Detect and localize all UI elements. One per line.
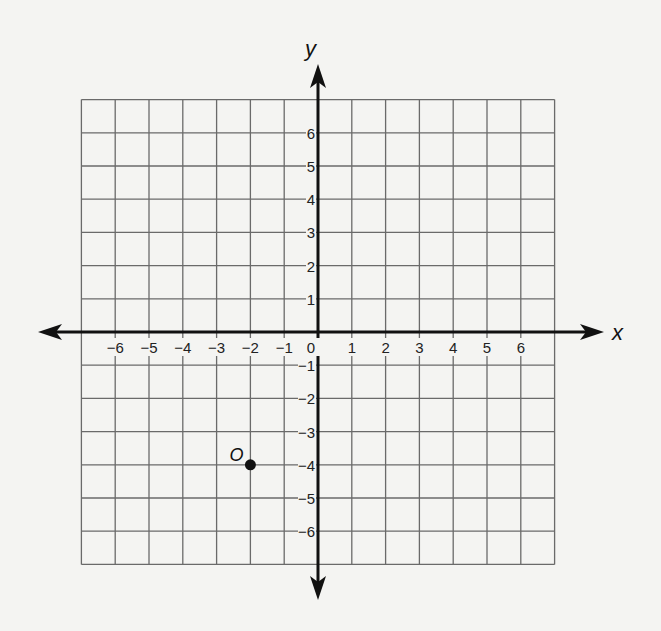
y-tick-label: 3 [307, 224, 315, 241]
x-tick-label: −1 [276, 339, 293, 356]
point-label: O [229, 445, 243, 465]
x-tick-label: 4 [449, 339, 457, 356]
y-tick-label: −3 [298, 424, 315, 441]
x-tick-label: 2 [381, 339, 389, 356]
x-tick-label: −6 [107, 339, 124, 356]
y-tick-label: −1 [298, 357, 315, 374]
x-tick-label: 6 [517, 339, 525, 356]
y-tick-label: −5 [298, 490, 315, 507]
x-tick-label: −3 [208, 339, 225, 356]
x-tick-label: 5 [483, 339, 491, 356]
y-tick-label: −4 [298, 457, 315, 474]
y-tick-label: −2 [298, 390, 315, 407]
y-tick-label: 5 [307, 158, 315, 175]
x-tick-label: 0 [307, 339, 315, 356]
x-tick-label: −2 [242, 339, 259, 356]
x-tick-label: −4 [174, 339, 191, 356]
y-tick-label: −6 [298, 523, 315, 540]
x-tick-label: 3 [415, 339, 423, 356]
y-tick-label: 4 [307, 191, 315, 208]
y-tick-label: 2 [307, 258, 315, 275]
x-axis-label: x [611, 320, 624, 345]
y-axis-label: y [303, 36, 318, 61]
y-tick-label: 1 [307, 291, 315, 308]
x-tick-label: −5 [140, 339, 157, 356]
coordinate-plane: xy−6−5−4−3−2−10123456654321−1−2−3−4−5−6O [0, 0, 661, 631]
y-tick-label: 6 [307, 125, 315, 142]
x-tick-label: 1 [348, 339, 356, 356]
point-o [245, 459, 256, 470]
